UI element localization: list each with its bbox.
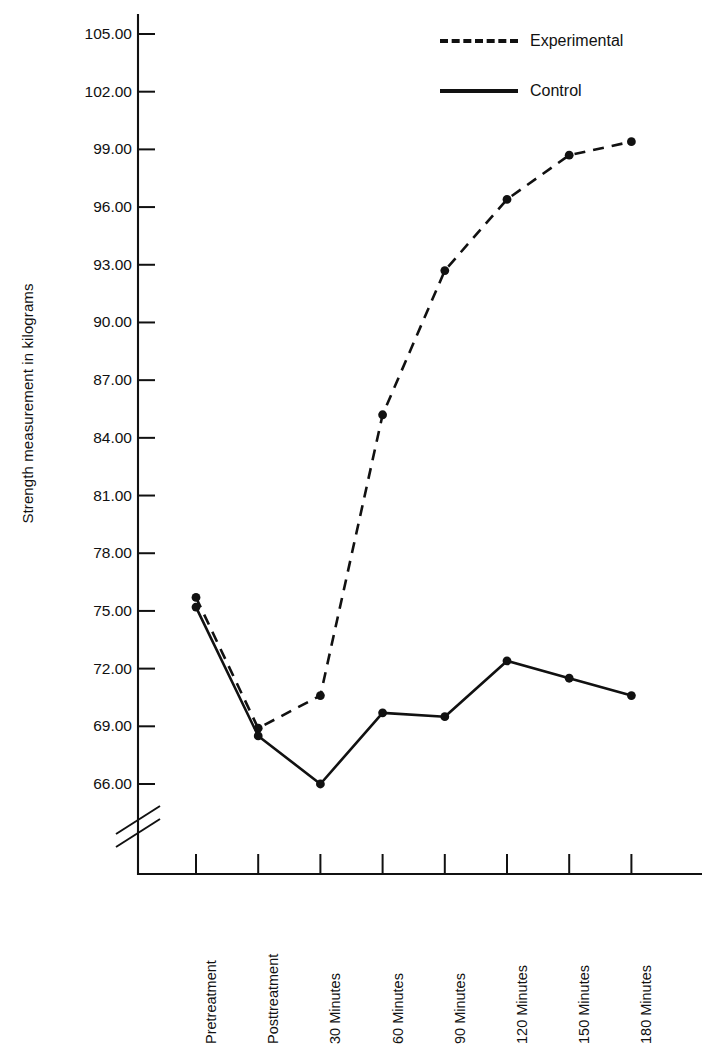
data-point-control (378, 708, 387, 717)
data-point-experimental (565, 151, 574, 160)
data-point-experimental (316, 691, 325, 700)
series-line-control (196, 607, 631, 784)
line-chart: Strength measurement in kilograms 66.006… (0, 0, 708, 1058)
data-point-control (316, 780, 325, 789)
plot-area (0, 0, 708, 1058)
data-point-experimental (192, 593, 201, 602)
data-point-control (192, 603, 201, 612)
data-point-experimental (503, 195, 512, 204)
data-point-control (440, 712, 449, 721)
data-point-experimental (378, 410, 387, 419)
data-point-control (254, 732, 263, 741)
axis-lines (138, 14, 702, 874)
data-point-control (503, 657, 512, 666)
data-point-control (565, 674, 574, 683)
data-point-experimental (440, 266, 449, 275)
data-point-experimental (627, 137, 636, 146)
series-line-experimental (196, 142, 631, 729)
data-point-control (627, 691, 636, 700)
